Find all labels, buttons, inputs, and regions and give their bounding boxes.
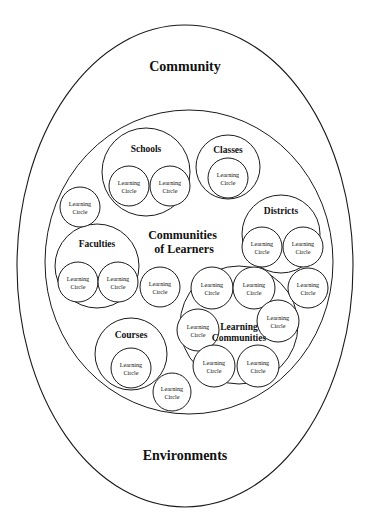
learning-circle-label-line1: Learning: [297, 281, 319, 288]
learning-circle-label-line2: Circle: [270, 322, 285, 329]
label-environments: Environments: [143, 448, 228, 463]
learning-circle-label-line1: Learning: [251, 240, 273, 247]
learning-circle-label-line2: Circle: [190, 331, 205, 338]
learning-circle-label-line1: Learning: [201, 281, 223, 288]
learning-circle-label-line1: Learning: [159, 179, 181, 186]
learning-circle-lcomm-top-left: [191, 267, 233, 309]
label-classes-circle: Classes: [213, 145, 243, 155]
learning-circle-label-line1: Learning: [118, 179, 140, 186]
learning-circle-schools-right: [150, 166, 190, 206]
label-districts-circle: Districts: [264, 206, 299, 216]
label-learning-communities-line1: Learning: [220, 322, 258, 332]
label-faculties-circle: Faculties: [79, 239, 116, 249]
learning-circle-label-line1: Learning: [107, 275, 129, 282]
learning-circle-label-line1: Learning: [247, 359, 269, 366]
learning-circle-label-line1: Learning: [267, 314, 289, 321]
learning-circle-free-upper-left: [60, 187, 100, 227]
learning-circle-courses: [111, 348, 151, 388]
label-courses-circle: Courses: [115, 330, 148, 340]
learning-circle-label-line2: Circle: [300, 289, 315, 296]
learning-circle-faculties-left: [58, 262, 98, 302]
learning-circle-schools-left: [109, 166, 149, 206]
learning-circle-classes: [208, 158, 248, 198]
learning-circle-label-line1: Learning: [120, 361, 142, 368]
learning-circle-free-right: [288, 268, 328, 308]
learning-circle-label-line1: Learning: [67, 275, 89, 282]
learning-circle-label-line2: Circle: [70, 283, 85, 290]
learning-circle-label-line1: Learning: [161, 385, 183, 392]
diagram-root: Community Environments Communities of Le…: [0, 0, 371, 526]
label-learning-communities-line2: Communities: [212, 333, 267, 343]
page-title-community: Community: [149, 59, 221, 74]
learning-circle-label-line1: Learning: [217, 171, 239, 178]
label-col-line1: Communities: [148, 228, 217, 242]
label-col-line2: of Learners: [154, 242, 214, 256]
learning-circle-districts-right: [283, 227, 323, 267]
learning-circle-free-middle: [140, 267, 180, 307]
learning-circle-label-line2: Circle: [254, 248, 269, 255]
learning-circle-label-line1: Learning: [69, 200, 91, 207]
learning-circle-label-line2: Circle: [110, 283, 125, 290]
learning-circle-label-line2: Circle: [72, 208, 87, 215]
learning-circle-label-line2: Circle: [204, 289, 219, 296]
label-schools-circle: Schools: [131, 144, 162, 154]
learning-circle-label-line2: Circle: [295, 248, 310, 255]
learning-circle-label-line1: Learning: [292, 240, 314, 247]
learning-circle-label-line2: Circle: [123, 369, 138, 376]
learning-circle-lcomm-bot-left: [193, 345, 235, 387]
label-communities-of-learners: Communities of Learners: [148, 228, 220, 256]
learning-circle-label-line2: Circle: [121, 187, 136, 194]
learning-circle-label-line2: Circle: [206, 367, 221, 374]
learning-circle-lcomm-bot-right: [237, 345, 279, 387]
learning-circle-districts-left: [242, 227, 282, 267]
learning-circle-label-line2: Circle: [250, 367, 265, 374]
nested-circles-diagram: Community Environments Communities of Le…: [0, 0, 371, 526]
learning-circle-label-line2: Circle: [220, 179, 235, 186]
learning-circle-label-line2: Circle: [152, 288, 167, 295]
learning-circle-faculties-right: [98, 262, 138, 302]
learning-circle-label-line1: Learning: [187, 323, 209, 330]
learning-circle-label-line2: Circle: [162, 187, 177, 194]
learning-circle-free-bottom: [153, 373, 191, 411]
learning-circle-label-line2: Circle: [164, 393, 179, 400]
learning-circle-label-line1: Learning: [203, 359, 225, 366]
learning-circle-label-line2: Circle: [246, 289, 261, 296]
learning-circle-label-line1: Learning: [243, 281, 265, 288]
learning-circle-label-line1: Learning: [149, 280, 171, 287]
